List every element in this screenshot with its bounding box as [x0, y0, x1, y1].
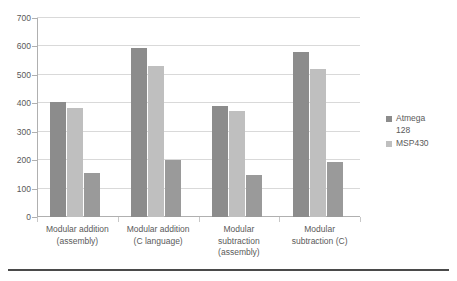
- x-axis-tick: [360, 217, 361, 222]
- x-axis-category-label: Modular addition (C language): [118, 224, 199, 247]
- y-axis-label-300: 300: [17, 127, 31, 136]
- bar: [165, 160, 181, 217]
- figure: 0100200300400500600700 Modular addition …: [0, 0, 457, 281]
- bar-group: [279, 18, 360, 217]
- y-axis-label-100: 100: [17, 184, 31, 193]
- y-tick-500: [32, 75, 37, 76]
- y-axis-label-700: 700: [17, 14, 31, 23]
- legend-swatch-icon: [386, 116, 392, 122]
- x-axis-tick: [199, 217, 200, 222]
- bar: [310, 69, 326, 217]
- y-tick-200: [32, 160, 37, 161]
- bar: [246, 175, 262, 217]
- x-axis-category-label: Modular addition (assembly): [37, 224, 118, 247]
- plot-area: [37, 18, 360, 217]
- chart-legend: Atmega 128MSP430: [386, 113, 457, 152]
- bar: [84, 173, 100, 217]
- bar-chart: 0100200300400500600700 Modular addition …: [0, 0, 457, 262]
- bar: [293, 52, 309, 217]
- x-axis-tick: [118, 217, 119, 222]
- y-tick-600: [32, 46, 37, 47]
- bar: [229, 111, 245, 217]
- y-axis-label-500: 500: [17, 71, 31, 80]
- bar-group: [199, 18, 280, 217]
- x-axis-tick: [37, 217, 38, 222]
- bottom-divider: [8, 269, 449, 271]
- y-axis-label-200: 200: [17, 156, 31, 165]
- legend-item[interactable]: Atmega 128: [386, 113, 457, 136]
- legend-item-label: Atmega 128: [396, 113, 425, 136]
- y-axis-line: [37, 18, 38, 218]
- y-axis-label-600: 600: [17, 42, 31, 51]
- legend-item[interactable]: MSP430: [386, 138, 457, 150]
- bar-group: [118, 18, 199, 217]
- bar: [50, 102, 66, 217]
- bar: [131, 48, 147, 217]
- x-axis-category-label: Modular subtraction (C): [279, 224, 360, 247]
- legend-swatch-icon: [386, 141, 392, 147]
- bar: [148, 66, 164, 217]
- y-tick-700: [32, 18, 37, 19]
- y-tick-400: [32, 103, 37, 104]
- y-axis-label-0: 0: [26, 213, 31, 222]
- x-axis-tick: [279, 217, 280, 222]
- y-axis-label-400: 400: [17, 99, 31, 108]
- bar: [212, 106, 228, 217]
- x-axis-category-label: Modular subtraction (assembly): [199, 224, 280, 259]
- legend-item-label: MSP430: [396, 138, 429, 150]
- bar: [67, 108, 83, 217]
- bar-group: [37, 18, 118, 217]
- y-tick-100: [32, 189, 37, 190]
- bar: [327, 162, 343, 217]
- y-tick-300: [32, 132, 37, 133]
